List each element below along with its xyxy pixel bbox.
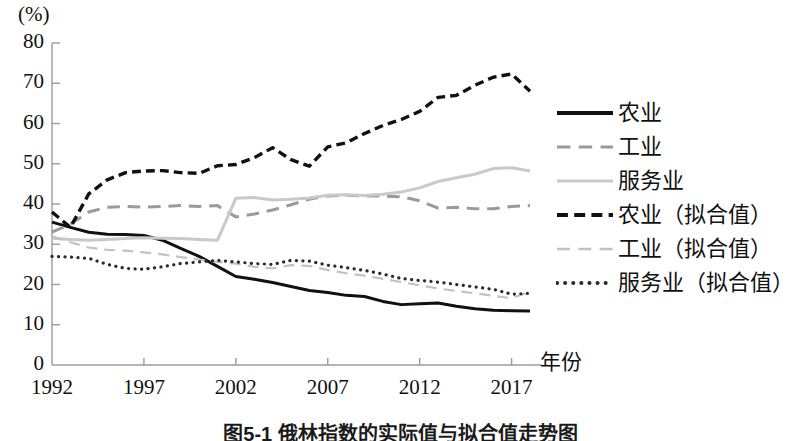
y-tick-label: 0 [8,351,44,376]
y-tick-label: 80 [8,29,44,54]
legend-item-4[interactable]: 工业（拟合值） [556,232,801,266]
figure-caption: 图5-1 俄林指数的实际值与拟合值走势图 [0,418,801,441]
x-tick-label: 2017 [477,375,547,400]
legend-label: 农业 [618,102,662,124]
legend-item-3[interactable]: 农业（拟合值） [556,198,801,232]
y-tick-label: 50 [8,150,44,175]
x-tick-label: 1992 [17,375,87,400]
legend-label: 服务业（拟合值） [618,272,794,294]
legend-label: 工业 [618,136,662,158]
legend-label: 农业（拟合值） [618,204,772,226]
legend-key-solid-black-key [556,106,614,120]
series-line-0 [52,222,530,311]
legend-key-dashed-light-gray-key [556,242,614,256]
y-tick-label: 70 [8,69,44,94]
y-tick-label: 60 [8,110,44,135]
chart-figure: (%) 01020304050607080 199219972002200720… [0,0,801,441]
legend-label: 工业（拟合值） [618,238,772,260]
y-tick-label: 10 [8,311,44,336]
legend-item-1[interactable]: 工业 [556,130,801,164]
y-tick-label: 40 [8,190,44,215]
legend-item-2[interactable]: 服务业 [556,164,801,198]
x-tick-label: 2007 [293,375,363,400]
x-tick-label: 1997 [109,375,179,400]
x-tick-label: 2012 [385,375,455,400]
y-tick-label: 20 [8,271,44,296]
series-line-5 [52,256,530,294]
x-tick-label: 2002 [201,375,271,400]
legend-item-5[interactable]: 服务业（拟合值） [556,266,801,300]
y-tick-label: 30 [8,230,44,255]
legend-key-solid-lightgray-key [556,174,614,188]
series-line-1 [52,195,530,232]
legend-label: 服务业 [618,170,684,192]
legend-key-dashed-heavy-black-key [556,208,614,222]
legend-key-dotted-black-key [556,276,614,290]
legend-item-0[interactable]: 农业 [556,96,801,130]
chart-series-layer [52,74,530,311]
legend-key-dashed-gray-key [556,140,614,154]
chart-legend: 农业工业服务业农业（拟合值）工业（拟合值）服务业（拟合值） [556,96,801,300]
x-axis-title: 年份 [540,345,582,375]
